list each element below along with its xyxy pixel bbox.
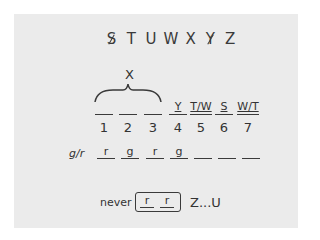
never-slot-2: r [160,195,174,208]
position-5: 5 [192,120,210,135]
slot-4: Y [169,100,187,115]
slot-5: T/W [190,100,212,115]
slot-2 [119,100,137,115]
gr-slot-6 [218,146,236,159]
position-1: 1 [95,120,113,135]
letter-sequence: S T U W X Y Z [104,30,238,48]
letter-w: W [163,30,178,48]
gr-slot-1: r [97,146,115,159]
position-4: 4 [169,120,187,135]
letter-z: Z [223,30,238,48]
letter-y: Y [203,30,218,48]
position-6: 6 [215,120,233,135]
letter-x: X [183,30,198,48]
never-slot-1: r [140,195,154,208]
position-3: 3 [144,120,162,135]
letter-u: U [144,30,159,48]
position-2: 2 [119,120,137,135]
position-7: 7 [239,120,257,135]
gr-label: g/r [69,147,84,160]
slot-1 [95,100,113,115]
never-label: never [100,196,132,209]
gr-slot-7 [242,146,260,159]
slot-6: S [215,100,233,115]
gr-slot-3: r [146,146,164,159]
gr-slot-4: g [170,146,188,159]
brace-label: X [125,67,134,82]
letter-s: S [104,30,119,48]
gr-slot-2: g [121,146,139,159]
letter-t: T [124,30,139,48]
slot-3 [144,100,162,115]
rule-suffix: Z...U [190,195,221,210]
gr-slot-5 [194,146,212,159]
slot-7: W/T [237,100,259,115]
